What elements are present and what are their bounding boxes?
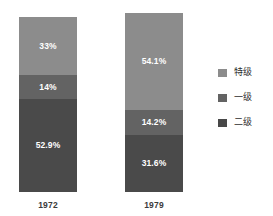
legend-swatch-icon [218,119,227,127]
bar-segment-label: 33% [39,42,56,51]
legend-swatch-icon [218,69,227,77]
bar-segment-label: 31.6% [142,159,167,168]
bar-segment-1979-special[interactable]: 54.1% [125,13,183,110]
bar-segment-label: 14.2% [142,118,167,127]
bar-segment-1972-grade1[interactable]: 14% [19,75,77,100]
bar-segment-1979-grade2[interactable]: 31.6% [125,135,183,192]
legend-item-label: 特级 [234,68,253,77]
bar-stack-1979[interactable]: 54.1% 14.2% 31.6% 1979 [125,13,183,192]
bar-segment-1972-grade2[interactable]: 52.9% [19,99,77,192]
legend-swatch-icon [218,94,227,102]
bar-group-1979: 54.1% 14.2% 31.6% 1979 [125,13,183,192]
bar-group-1972: 33% 14% 52.9% 1972 [19,17,77,192]
legend-item-special[interactable]: 特级 [218,60,273,85]
legend-item-label: 一级 [234,93,253,102]
plot-area: 33% 14% 52.9% 1972 54.1% 14.2% [0,0,200,216]
chart-legend: 特级 一级 二级 [218,60,273,135]
legend-item-label: 二级 [234,118,253,127]
legend-item-grade2[interactable]: 二级 [218,110,273,135]
bar-segment-1979-grade1[interactable]: 14.2% [125,110,183,135]
category-label-1972: 1972 [19,200,77,210]
bar-segment-label: 54.1% [142,57,167,66]
category-label-1979: 1979 [125,200,183,210]
bar-segment-label: 52.9% [36,141,61,150]
stacked-bar-chart: 33% 14% 52.9% 1972 54.1% 14.2% [0,0,273,216]
legend-item-grade1[interactable]: 一级 [218,85,273,110]
bar-segment-label: 14% [39,83,56,92]
bar-stack-1972[interactable]: 33% 14% 52.9% 1972 [19,17,77,192]
bar-segment-1972-special[interactable]: 33% [19,17,77,75]
